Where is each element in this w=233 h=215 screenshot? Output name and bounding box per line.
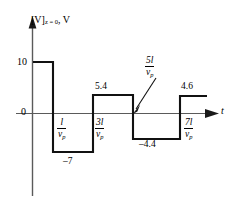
fraction-numerator: 3l xyxy=(95,118,104,128)
fraction-1l-vp: l vp xyxy=(57,118,66,140)
fraction-denominator-sub: p xyxy=(150,70,153,77)
fraction-3l-vp: 3l vp xyxy=(95,118,104,140)
fraction-denominator: vp xyxy=(95,130,104,140)
level-label-neg4p4: –4.4 xyxy=(139,140,156,150)
fraction-5l-vp: 5l vp xyxy=(145,56,154,78)
y-axis-caption-suffix: , V xyxy=(58,14,70,25)
y-tick-label-0: 0 xyxy=(21,107,26,117)
x-axis-arrowhead xyxy=(205,109,219,118)
annotation-leader-line xyxy=(136,78,156,109)
time-label-3l-over-vp: 3l vp xyxy=(95,118,104,140)
level-label-neg7: –7 xyxy=(63,157,73,167)
fraction-denominator-sub: p xyxy=(100,132,103,139)
time-label-7l-over-vp: 7l vp xyxy=(184,118,193,140)
waveform-plot xyxy=(0,0,233,215)
y-axis-caption-prefix: [V] xyxy=(31,14,45,25)
fraction-denominator: vp xyxy=(57,130,66,140)
time-label-1l-over-vp: l vp xyxy=(57,118,66,140)
y-axis-caption: [V]z = 0, V xyxy=(31,15,70,26)
fraction-denominator-sub: p xyxy=(189,132,192,139)
fraction-numerator: 5l xyxy=(145,56,154,66)
fraction-denominator: vp xyxy=(184,130,193,140)
time-label-5l-over-vp: 5l vp xyxy=(145,56,154,78)
level-label-5p4: 5.4 xyxy=(95,82,107,92)
fraction-7l-vp: 7l vp xyxy=(184,118,193,140)
fraction-denominator: vp xyxy=(145,68,154,78)
fraction-denominator-sub: p xyxy=(62,132,65,139)
y-tick-label-10: 10 xyxy=(17,57,27,67)
fraction-numerator: l xyxy=(57,118,66,128)
fraction-numerator: 7l xyxy=(184,118,193,128)
level-label-4p6: 4.6 xyxy=(181,82,193,92)
y-axis-caption-subscript: z = 0 xyxy=(45,18,58,25)
x-axis-caption: t xyxy=(221,106,224,116)
voltage-waveform-figure: [V]z = 0, V t 10 0 5.4 4.6 –7 –4.4 l vp … xyxy=(0,0,233,215)
